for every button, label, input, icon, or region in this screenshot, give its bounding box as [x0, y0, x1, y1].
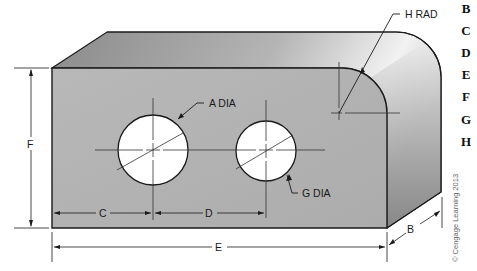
- answer-letter-f: F: [455, 89, 477, 105]
- front-face: [52, 68, 387, 228]
- label-a-dia: A DIA: [209, 97, 236, 109]
- label-h-rad: H RAD: [405, 8, 438, 20]
- answer-letter-b: B: [455, 1, 477, 17]
- answer-letter-d: D: [455, 45, 477, 61]
- answer-letter-e: E: [455, 67, 477, 83]
- answer-letter-g: G: [455, 112, 477, 128]
- label-g-dia: G DIA: [302, 187, 331, 199]
- label-c: C: [99, 207, 107, 219]
- label-d: D: [205, 207, 213, 219]
- label-e: E: [215, 241, 222, 253]
- answer-letter-h: H: [455, 134, 477, 150]
- label-b: B: [407, 223, 414, 235]
- answer-letter-c: C: [455, 23, 477, 39]
- label-f: F: [27, 138, 33, 150]
- copyright-notice: © Cengage Learning 2013: [451, 174, 460, 262]
- block-drawing: A DIA G DIA H RAD F C D E: [0, 0, 477, 271]
